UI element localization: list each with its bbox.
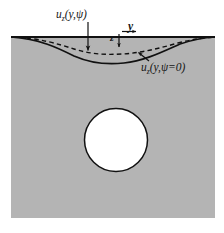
label-z-axis: z [110,34,114,44]
label-uz-psi-zero-args: (y,ψ=0) [150,61,186,73]
cylindrical-cavity [85,109,148,172]
label-y-axis: y [128,21,133,33]
label-uz-psi-args: (y,ψ) [65,8,87,20]
label-uz-psi-zero: uz(y,ψ=0) [141,62,185,76]
figure-container: uz(y,ψ) uz(y,ψ=0) y z [0,0,224,233]
label-uz-psi: uz(y,ψ) [56,9,87,23]
